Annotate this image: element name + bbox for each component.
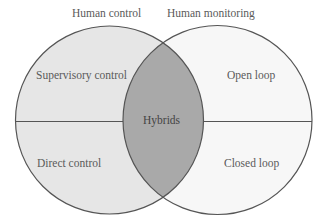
human-monitoring-title: Human monitoring (167, 8, 255, 20)
open-loop-label: Open loop (227, 70, 275, 82)
human-control-title: Human control (72, 8, 141, 20)
closed-loop-label: Closed loop (224, 158, 279, 170)
supervisory-control-label: Supervisory control (36, 70, 127, 82)
hybrids-label: Hybrids (143, 115, 180, 127)
venn-diagram (0, 0, 324, 224)
direct-control-label: Direct control (37, 158, 101, 170)
